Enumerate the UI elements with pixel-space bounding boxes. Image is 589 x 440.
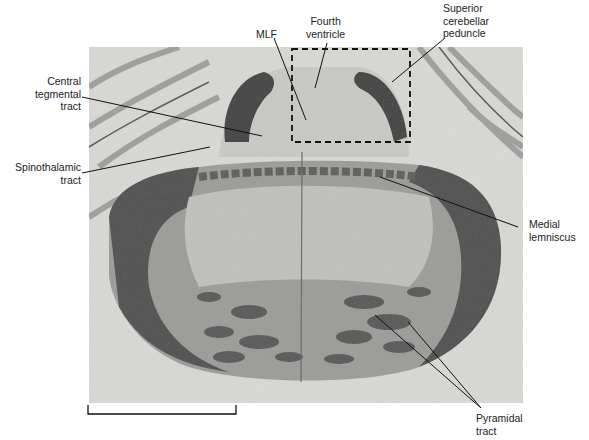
label-text: lemniscus [529,231,576,244]
label-text: tract [476,425,523,438]
label-fourth-ventricle: Fourth ventricle [306,15,345,40]
leader-superior-cerebellar-peduncle [392,38,445,82]
label-text: Spinothalamic [15,161,81,174]
leader-pyramidal-tract-1 [375,315,481,408]
label-mlf: MLF [256,28,277,41]
label-medial-lemniscus: Medial lemniscus [529,218,576,243]
label-text: Fourth [306,15,345,28]
label-superior-cerebellar-peduncle: Superior cerebellar peduncle [443,2,489,40]
label-text: tract [35,100,81,113]
label-text: Pyramidal [476,412,523,425]
leader-pyramidal-tract-2 [408,322,481,408]
leader-spinothalamic-tract [82,147,210,173]
scale-bar [88,405,236,414]
label-text: peduncle [443,27,489,40]
label-text: tract [15,174,81,187]
leader-central-tegmental-tract [82,97,262,136]
label-central-tegmental-tract: Central tegmental tract [35,75,81,113]
label-text: MLF [256,28,277,41]
label-text: Central [35,75,81,88]
annotation-overlay [0,0,589,440]
label-text: tegmental [35,88,81,101]
label-text: Medial [529,218,576,231]
inset-dashed-box [292,49,410,142]
leader-medial-lemniscus [380,177,518,227]
leader-mlf [274,38,306,120]
label-spinothalamic-tract: Spinothalamic tract [15,161,81,186]
label-pyramidal-tract: Pyramidal tract [476,412,523,437]
label-text: ventricle [306,28,345,41]
label-text: cerebellar [443,15,489,28]
label-text: Superior [443,2,489,15]
